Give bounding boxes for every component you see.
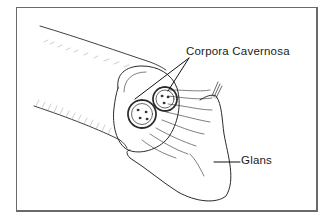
corpus-cavernosum-2: [153, 87, 177, 111]
label-glans: Glans: [241, 154, 272, 166]
label-corpora-cavernosa: Corpora Cavernosa: [186, 45, 290, 57]
corpus-cavernosum-1: [128, 100, 156, 128]
corpora-leader-lines: [135, 58, 189, 99]
penis-cross-section-illustration: [0, 0, 335, 223]
